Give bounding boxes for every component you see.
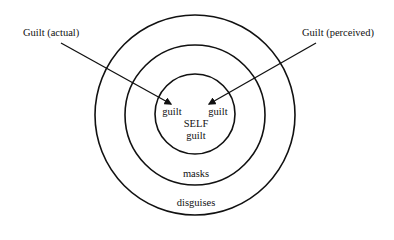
label-inner-guilt-left: guilt <box>162 107 181 118</box>
label-self: SELF <box>184 119 209 130</box>
label-guilt-perceived: Guilt (perceived) <box>302 28 374 39</box>
middle-ring-masks <box>125 45 265 185</box>
label-guilt-actual: Guilt (actual) <box>23 28 79 39</box>
label-masks: masks <box>183 169 209 180</box>
label-inner-guilt-bottom: guilt <box>186 131 205 142</box>
arrow-guilt-actual <box>61 43 171 104</box>
label-inner-guilt-right: guilt <box>208 107 227 118</box>
label-disguises: disguises <box>177 198 216 209</box>
